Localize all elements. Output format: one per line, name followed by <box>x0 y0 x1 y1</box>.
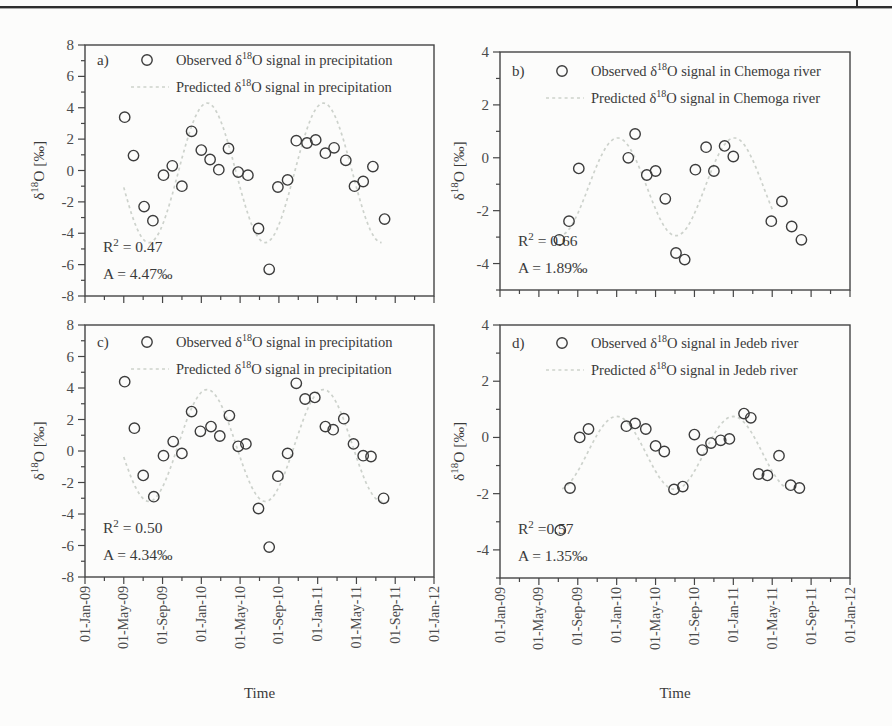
observed-points <box>555 408 805 535</box>
y-tick-label: -8 <box>62 288 75 304</box>
observed-point <box>583 424 593 434</box>
observed-point <box>177 448 187 458</box>
x-tick-label: 01-Sep-11 <box>388 586 403 644</box>
stats-annotation: R2 =0.57A = 1.35‰ <box>518 518 588 564</box>
y-axis-title: δ18O [‰] <box>28 141 47 200</box>
x-axis-labels: 01-Jan-0901-May-0901-Sep-0901-Jan-1001-M… <box>78 586 442 649</box>
amplitude-text: A = 1.89‰ <box>518 259 588 276</box>
observed-point <box>660 194 670 204</box>
observed-point <box>641 424 651 434</box>
observed-point <box>650 166 660 176</box>
panel-label: b) <box>512 63 525 80</box>
y-tick-label: 6 <box>67 68 75 84</box>
legend-circle-marker <box>142 337 152 347</box>
observed-point <box>766 216 776 226</box>
stats-annotation: R2 = 0.50A = 4.34‰ <box>103 517 173 563</box>
subplot-c: -8-6-4-20246801-Jan-0901-May-0901-Sep-09… <box>28 317 442 701</box>
stats-annotation: R2 = 0.66A = 1.89‰ <box>518 230 588 276</box>
observed-point <box>706 438 716 448</box>
amplitude-text: A = 4.34‰ <box>103 546 173 563</box>
observed-point <box>630 129 640 139</box>
legend-predicted-label: Predicted δ18O signal in precipitation <box>176 77 393 95</box>
observed-point <box>291 136 301 146</box>
r-squared-text: R2 = 0.50 <box>103 517 163 536</box>
legend-observed-label: Observed δ18O signal in precipitation <box>176 332 393 350</box>
x-tick-label: 01-Jan-09 <box>78 586 93 642</box>
y-axis-title: δ18O [‰] <box>28 421 47 480</box>
legend: c)Observed δ18O signal in precipitationP… <box>97 332 393 377</box>
page-edge-mark <box>856 0 858 7</box>
observed-point <box>368 161 378 171</box>
observed-point <box>311 135 321 145</box>
x-tick-label: 01-Jan-12 <box>843 587 858 643</box>
y-tick-label: 0 <box>482 150 490 166</box>
legend-circle-marker <box>557 66 567 76</box>
legend: b)Observed δ18O signal in Chemoga riverP… <box>512 61 821 106</box>
legend-predicted-label: Predicted δ18O signal in Jedeb river <box>591 360 798 378</box>
observed-point <box>329 143 339 153</box>
amplitude-text: A = 4.47‰ <box>103 265 173 282</box>
y-tick-label: 4 <box>67 100 75 116</box>
observed-point <box>120 377 130 387</box>
observed-point <box>796 235 806 245</box>
observed-point <box>565 483 575 493</box>
y-axis-ticks: -4-2024 <box>477 317 501 578</box>
observed-point <box>574 163 584 173</box>
observed-point <box>243 170 253 180</box>
y-axis-ticks: -8-6-4-202468 <box>62 37 86 304</box>
observed-point <box>195 426 205 436</box>
y-tick-label: -2 <box>62 475 75 491</box>
y-tick-label: 2 <box>482 373 490 389</box>
observed-point <box>358 176 368 186</box>
observed-point <box>167 161 177 171</box>
observed-point <box>564 216 574 226</box>
panel-label: c) <box>97 334 109 351</box>
x-axis-ticks <box>500 578 850 585</box>
y-tick-label: -4 <box>477 256 490 272</box>
observed-point <box>690 165 700 175</box>
four-panel-isotope-figure: -8-6-4-202468δ18O [‰]a)Observed δ18O sig… <box>0 0 892 726</box>
observed-point <box>253 223 263 233</box>
y-tick-label: 2 <box>482 97 490 113</box>
observed-point <box>264 264 274 274</box>
x-tick-label: 01-Jan-10 <box>609 587 624 643</box>
y-tick-label: -6 <box>62 257 75 273</box>
y-axis-title: δ18O [‰] <box>448 141 467 200</box>
observed-point <box>787 221 797 231</box>
legend-observed-label: Observed δ18O signal in Jedeb river <box>591 333 798 351</box>
observed-point <box>282 448 292 458</box>
r-squared-text: R2 = 0.66 <box>518 230 578 249</box>
observed-points <box>554 129 807 265</box>
observed-point <box>728 151 738 161</box>
y-tick-label: 0 <box>482 429 490 445</box>
observed-point <box>128 150 138 160</box>
x-tick-label: 01-May-11 <box>765 587 780 649</box>
panel-label: d) <box>512 335 525 352</box>
observed-point <box>379 214 389 224</box>
x-axis-title: Time <box>244 685 275 701</box>
y-tick-label: -8 <box>62 569 75 585</box>
x-axis-ticks <box>500 290 850 297</box>
observed-point <box>291 378 301 388</box>
x-tick-label: 01-May-09 <box>531 587 546 650</box>
observed-point <box>138 470 148 480</box>
observed-point <box>168 436 178 446</box>
observed-point <box>709 166 719 176</box>
x-tick-label: 01-Sep-09 <box>570 587 585 645</box>
y-tick-label: -6 <box>62 538 75 554</box>
x-tick-label: 01-Sep-09 <box>155 586 170 644</box>
y-axis-ticks: -4-2024 <box>477 44 501 290</box>
x-tick-label: 01-May-10 <box>648 587 663 650</box>
y-axis-title: δ18O [‰] <box>448 422 467 481</box>
observed-point <box>701 142 711 152</box>
y-tick-label: -2 <box>477 203 490 219</box>
x-tick-label: 01-Jan-12 <box>427 586 442 642</box>
observed-point <box>148 216 158 226</box>
observed-point <box>129 423 139 433</box>
y-axis-ticks: -8-6-4-202468 <box>62 317 86 585</box>
legend: d)Observed δ18O signal in Jedeb riverPre… <box>512 333 798 378</box>
x-tick-label: 01-May-11 <box>349 586 364 648</box>
observed-point <box>139 201 149 211</box>
y-tick-label: -2 <box>477 486 490 502</box>
subplot-a: -8-6-4-202468δ18O [‰]a)Observed δ18O sig… <box>28 37 434 304</box>
